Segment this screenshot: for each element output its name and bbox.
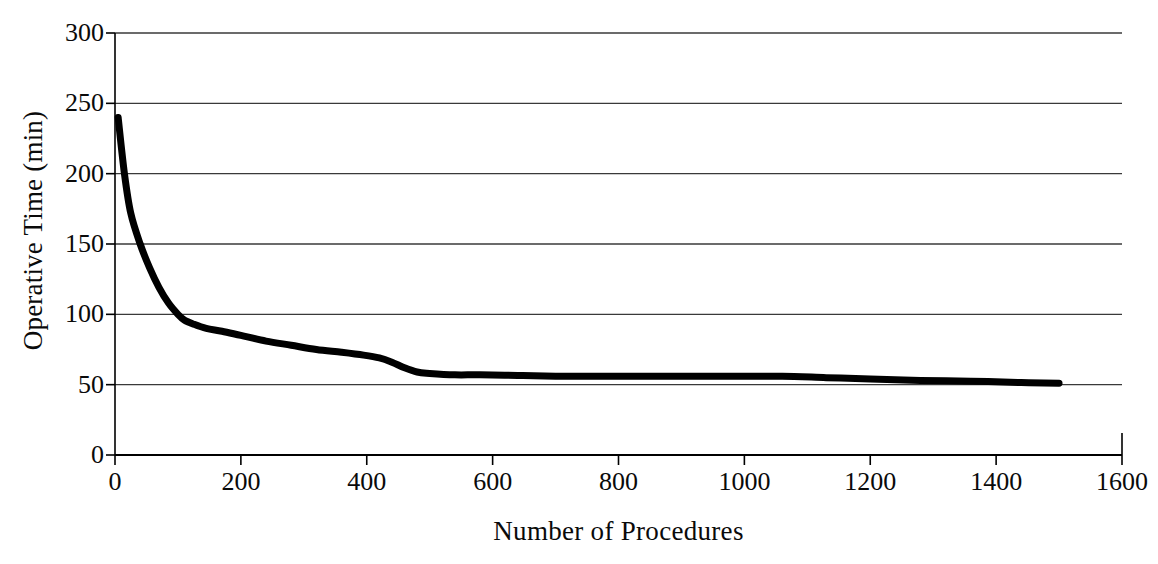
data-series-line [118,117,1059,383]
x-tick-label: 1200 [815,469,925,495]
x-tick-label: 200 [186,469,296,495]
x-tick-label: 800 [564,469,674,495]
x-tick-label: 1400 [941,469,1051,495]
x-tick-label: 600 [438,469,548,495]
x-tick-label: 1000 [689,469,799,495]
x-tick-label: 400 [312,469,422,495]
axis-ticks [106,33,1122,465]
x-tick-label: 1600 [1067,469,1158,495]
gridlines [115,33,1122,455]
x-axis-title: Number of Procedures [115,516,1122,547]
x-axis-tick-labels: 02004006008001000120014001600 [0,469,1158,509]
chart-container: Operative Time (min) 050100150200250300 … [0,0,1158,564]
series-line-operative-time [118,117,1059,383]
x-tick-label: 0 [60,469,170,495]
